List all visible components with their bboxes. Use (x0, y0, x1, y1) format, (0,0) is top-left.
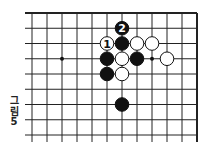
white-stone (115, 52, 129, 66)
move-number: 2 (118, 22, 126, 35)
black-stone-2: 2 (115, 21, 129, 35)
star-point (150, 57, 154, 61)
figure-caption: 그 림 5 (7, 96, 21, 128)
white-stone (115, 67, 129, 81)
black-stone (100, 52, 114, 66)
caption-char-3: 5 (11, 117, 18, 128)
black-stone (115, 37, 129, 51)
caption-char-1: 그 (10, 96, 19, 107)
white-stone (145, 37, 159, 51)
go-board: 21 (0, 0, 210, 155)
white-stone-1: 1 (100, 37, 114, 51)
black-stone (130, 52, 144, 66)
move-number: 1 (103, 38, 111, 51)
black-stone (100, 67, 114, 81)
white-stone (130, 37, 144, 51)
white-stone (160, 52, 174, 66)
black-stone (115, 98, 129, 112)
star-point (60, 57, 64, 61)
